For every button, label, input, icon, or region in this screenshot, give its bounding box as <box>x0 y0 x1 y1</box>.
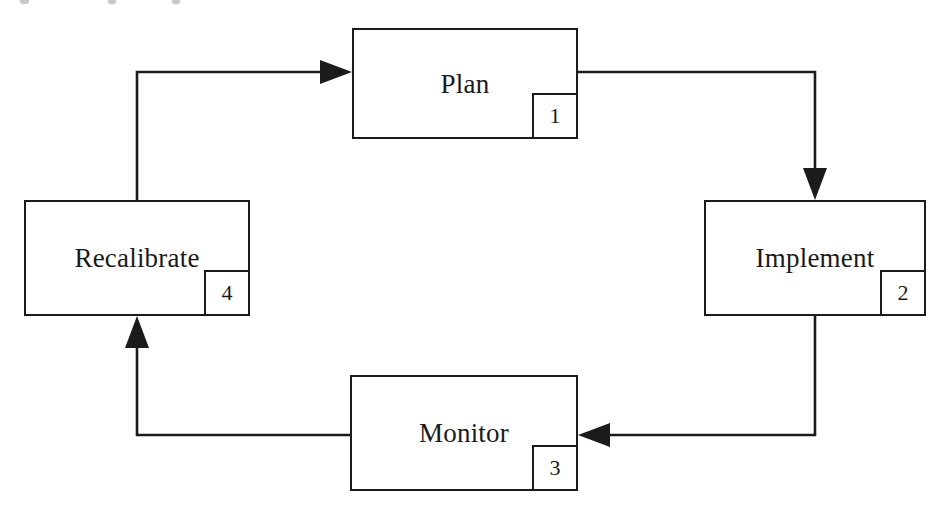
node-implement[interactable]: Implement 2 <box>704 200 926 316</box>
node-monitor[interactable]: Monitor 3 <box>350 375 578 491</box>
node-implement-label: Implement <box>706 245 924 272</box>
node-plan-number: 1 <box>532 93 578 139</box>
diagram-canvas: Plan 1 Implement 2 Monitor 3 Recalibrate… <box>0 0 948 512</box>
node-recalibrate[interactable]: Recalibrate 4 <box>24 200 250 316</box>
node-recalibrate-label: Recalibrate <box>26 245 248 272</box>
scan-artifact <box>172 0 180 4</box>
edge-monitor-to-recalibrate <box>125 316 350 435</box>
node-monitor-label: Monitor <box>352 420 576 447</box>
scan-artifact <box>108 0 116 4</box>
edge-implement-to-monitor <box>578 316 815 447</box>
node-implement-number: 2 <box>880 270 926 316</box>
node-recalibrate-number: 4 <box>204 270 250 316</box>
node-plan[interactable]: Plan 1 <box>352 28 578 139</box>
node-monitor-number: 3 <box>532 445 578 491</box>
edge-plan-to-implement <box>578 72 827 200</box>
scan-artifact <box>20 0 29 4</box>
edge-recalibrate-to-plan <box>137 60 352 200</box>
